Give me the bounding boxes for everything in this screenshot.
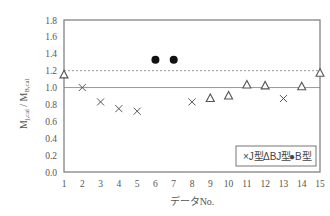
- ylabel-sep: /: [18, 101, 29, 109]
- marker-triangle-icon: [225, 92, 233, 100]
- marker-circle-icon: [151, 56, 159, 64]
- y-axis-ticks: 0.00.20.40.60.81.01.21.41.61.8: [45, 16, 57, 178]
- marker-circle-icon: [170, 56, 178, 64]
- x-tick-label: 10: [224, 179, 234, 189]
- x-tick-label: 1: [62, 179, 67, 189]
- marker-x-icon: [97, 98, 104, 105]
- marker-x-icon: [280, 95, 287, 102]
- legend-item-j: ×J型: [243, 150, 264, 162]
- x-tick-label: 15: [315, 179, 325, 189]
- legend: ×J型 ΔBJ型 ●B型: [236, 146, 316, 166]
- marker-triangle-icon: [60, 70, 68, 78]
- x-tick-label: 11: [242, 179, 251, 189]
- marker-triangle-icon: [206, 94, 214, 102]
- legend-item-b: ●B型: [289, 150, 312, 162]
- x-tick-label: 6: [153, 179, 158, 189]
- marker-triangle-icon: [298, 82, 306, 90]
- marker-triangle-icon: [243, 81, 251, 89]
- y-tick-label: 0.2: [45, 151, 57, 161]
- x-tick-label: 13: [279, 179, 289, 189]
- x-axis-ticks: 123456789101112131415: [62, 179, 325, 189]
- marker-triangle-icon: [316, 69, 324, 77]
- x-tick-label: 14: [297, 179, 307, 189]
- x-tick-label: 12: [260, 179, 270, 189]
- y-tick-label: 1.0: [45, 83, 57, 93]
- y-axis-label: Mj,cal / MB,cal: [18, 79, 30, 129]
- x-tick-label: 3: [98, 179, 103, 189]
- legend-item-bj: ΔBJ型: [263, 150, 291, 162]
- chart: 0.00.20.40.60.81.01.21.41.61.8 123456789…: [0, 0, 330, 216]
- data-points: [60, 56, 324, 115]
- ylabel-main-1: M: [18, 120, 29, 129]
- x-tick-label: 5: [135, 179, 140, 189]
- ylabel-sub-1: j,cal: [23, 109, 30, 121]
- svg-text:Mj,cal / MB,cal: Mj,cal / MB,cal: [18, 79, 30, 129]
- ylabel-sub-2: B,cal: [23, 79, 30, 93]
- x-axis-label: データNo.: [170, 195, 215, 207]
- marker-x-icon: [134, 108, 141, 115]
- y-tick-label: 0.0: [45, 168, 57, 178]
- y-tick-label: 1.2: [45, 66, 57, 76]
- y-tick-label: 1.8: [45, 16, 57, 26]
- y-tick-label: 1.4: [45, 49, 57, 59]
- x-tick-label: 2: [80, 179, 85, 189]
- x-tick-label: 4: [116, 179, 121, 189]
- ylabel-main-2: M: [18, 92, 29, 101]
- marker-x-icon: [189, 98, 196, 105]
- y-tick-label: 1.6: [45, 32, 57, 42]
- y-tick-label: 0.4: [45, 134, 57, 144]
- x-tick-label: 9: [208, 179, 213, 189]
- marker-x-icon: [115, 105, 122, 112]
- reference-lines: [64, 71, 320, 88]
- y-tick-label: 0.6: [45, 117, 57, 127]
- y-tick-label: 0.8: [45, 100, 57, 110]
- marker-triangle-icon: [261, 81, 269, 89]
- x-tick-label: 8: [190, 179, 195, 189]
- x-tick-label: 7: [171, 179, 176, 189]
